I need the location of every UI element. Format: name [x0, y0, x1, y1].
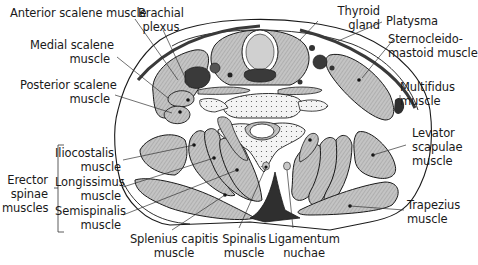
- label-splenius-capitis: Splenius capitis muscle: [124, 232, 224, 260]
- label-sternocleidomastoid: Sternocleido- mastoid muscle: [388, 32, 478, 60]
- label-line: mastoid muscle: [388, 46, 478, 60]
- label-line: Medial scalene: [30, 38, 110, 52]
- label-brachial-plexus: Brachial plexus: [138, 6, 184, 34]
- label-line: Splenius capitis: [124, 232, 224, 246]
- label-line: nuchae: [268, 246, 340, 260]
- label-line: Brachial: [138, 6, 184, 20]
- label-line: Longissimus: [55, 175, 121, 189]
- label-line: muscle: [55, 189, 121, 203]
- label-anterior-scalene: Anterior scalene muscle: [10, 6, 147, 20]
- label-line: muscle: [407, 212, 460, 226]
- spinal-cord: [250, 124, 274, 138]
- label-line: Ligamentum: [268, 232, 340, 246]
- label-trapezius: Trapezius muscle: [407, 198, 460, 226]
- label-line: Trapezius: [407, 198, 460, 212]
- label-line: muscle: [30, 52, 110, 66]
- label-spinalis: Spinalis muscle: [218, 232, 270, 260]
- label-line: plexus: [138, 20, 184, 34]
- label-line: Multifidus: [400, 80, 455, 94]
- label-line: muscles: [2, 201, 48, 215]
- label-ligamentum-nuchae: Ligamentum nuchae: [268, 232, 340, 260]
- label-line: muscle: [20, 92, 110, 106]
- label-line: muscle: [218, 246, 270, 260]
- label-erector-spinae: Erector spinae muscles: [2, 173, 48, 215]
- label-line: muscle: [412, 154, 462, 168]
- label-platysma: Platysma: [386, 14, 438, 28]
- label-line: muscle: [55, 160, 121, 174]
- right-jugular: [313, 55, 327, 69]
- label-line: Posterior scalene: [20, 78, 110, 92]
- label-line: muscle: [124, 246, 224, 260]
- label-posterior-scalene: Posterior scalene muscle: [20, 78, 110, 106]
- vertebral-body: [223, 94, 301, 118]
- label-line: spinae: [2, 187, 48, 201]
- label-iliocostalis: Iliocostalis muscle: [55, 146, 121, 174]
- label-longissimus: Longissimus muscle: [55, 175, 121, 203]
- label-line: Iliocostalis: [55, 146, 121, 160]
- left-anterior-scalene: [168, 91, 194, 107]
- label-semispinalis: Semispinalis muscle: [55, 204, 121, 232]
- left-posterior-scalene: [164, 106, 190, 124]
- label-line: Thyroid: [328, 4, 380, 18]
- longus-colli-left: [198, 87, 250, 94]
- label-line: Sternocleido-: [388, 32, 478, 46]
- longus-colli-right: [278, 87, 322, 95]
- label-line: Semispinalis: [55, 204, 121, 218]
- label-line: muscle: [55, 218, 121, 232]
- label-line: scapulae: [412, 140, 462, 154]
- label-line: gland: [328, 18, 380, 32]
- label-line: Erector: [2, 173, 48, 187]
- label-line: muscle: [400, 94, 455, 108]
- label-thyroid-gland: Thyroid gland: [328, 4, 380, 32]
- label-line: Levator: [412, 126, 462, 140]
- label-line: Spinalis: [218, 232, 270, 246]
- label-levator-scapulae: Levator scapulae muscle: [412, 126, 462, 168]
- label-multifidus: Multifidus muscle: [400, 80, 455, 108]
- label-medial-scalene: Medial scalene muscle: [30, 38, 110, 66]
- esophagus: [244, 69, 276, 82]
